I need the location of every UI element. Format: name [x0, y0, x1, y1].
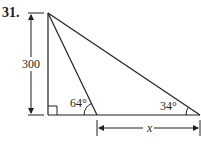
angle-34-label: 34°	[160, 100, 177, 112]
height-label: 300	[22, 57, 40, 71]
unknown-x-label: x	[145, 122, 154, 134]
right-angle-marker	[48, 106, 57, 115]
angle-arc-34	[186, 107, 188, 115]
angle-64-label: 64°	[70, 97, 87, 109]
triangle-diagram	[0, 0, 201, 147]
